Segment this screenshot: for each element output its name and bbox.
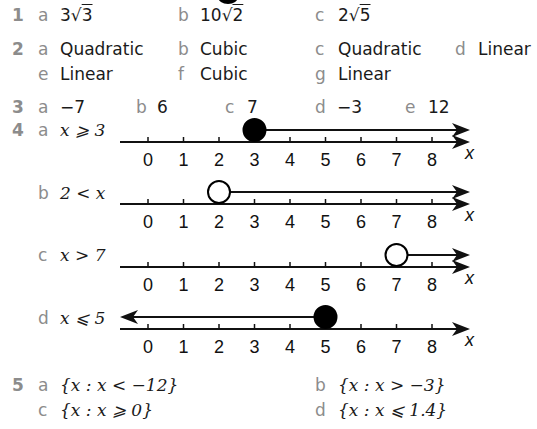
tick-label: 7 [391, 212, 401, 232]
axis-label: x [464, 330, 475, 350]
set-5d: {x : x ⩽ 1.4} [338, 400, 447, 420]
part-label: b [315, 375, 326, 395]
tick-label: 6 [356, 275, 366, 295]
tick-label: 2 [214, 150, 224, 170]
closed-endpoint [315, 306, 337, 328]
tick-label: 8 [427, 212, 437, 232]
tick-label: 1 [178, 337, 188, 357]
open-endpoint [208, 181, 230, 203]
tick-label: 4 [285, 337, 295, 357]
tick-label: 0 [143, 212, 153, 232]
part-label: a [38, 375, 48, 395]
tick-label: 5 [320, 275, 330, 295]
tick-label: 3 [249, 212, 259, 232]
set-5a: {x : x < −12} [60, 375, 178, 395]
axis-label: x [464, 205, 475, 225]
axis-label: x [464, 268, 475, 288]
tick-label: 4 [285, 275, 295, 295]
tick-label: 7 [391, 337, 401, 357]
tick-label: 6 [356, 150, 366, 170]
tick-label: 6 [356, 337, 366, 357]
tick-label: 2 [214, 337, 224, 357]
tick-label: 0 [143, 275, 153, 295]
tick-label: 6 [356, 212, 366, 232]
tick-label: 3 [249, 337, 259, 357]
tick-label: 3 [249, 150, 259, 170]
closed-endpoint [244, 119, 266, 141]
axis-label: x [464, 143, 475, 163]
tick-label: 8 [427, 150, 437, 170]
question-number: 5 [12, 375, 24, 395]
tick-label: 0 [143, 150, 153, 170]
tick-label: 7 [391, 150, 401, 170]
open-endpoint [386, 244, 408, 266]
tick-label: 5 [320, 337, 330, 357]
tick-label: 2 [214, 275, 224, 295]
tick-label: 8 [427, 275, 437, 295]
set-5b: {x : x > −3} [338, 375, 445, 395]
tick-label: 4 [285, 212, 295, 232]
tick-label: 2 [214, 212, 224, 232]
tick-label: 8 [427, 337, 437, 357]
number-lines: 012345678x012345678x012345678x012345678x [0, 0, 537, 429]
tick-label: 1 [178, 275, 188, 295]
tick-label: 4 [285, 150, 295, 170]
part-label: d [315, 400, 326, 420]
tick-label: 5 [320, 212, 330, 232]
tick-label: 5 [320, 150, 330, 170]
tick-label: 3 [249, 275, 259, 295]
part-label: c [38, 400, 47, 420]
tick-label: 1 [178, 150, 188, 170]
set-5c: {x : x ⩾ 0} [60, 400, 153, 420]
tick-label: 1 [178, 212, 188, 232]
tick-label: 7 [391, 275, 401, 295]
tick-label: 0 [143, 337, 153, 357]
